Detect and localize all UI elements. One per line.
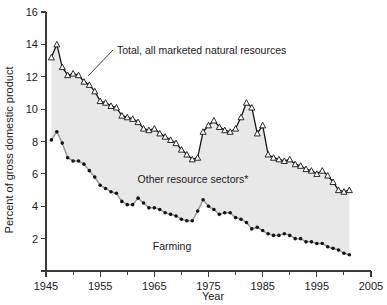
farming-point: [304, 240, 308, 244]
total-point: [70, 71, 76, 77]
farming-point: [201, 198, 205, 202]
farming-point: [125, 203, 129, 207]
farming-point: [245, 221, 249, 225]
y-axis-tick-label: 12: [26, 71, 38, 83]
farming-point: [218, 213, 222, 217]
farming-point: [115, 192, 119, 196]
farming-point: [190, 219, 194, 223]
farming-point: [234, 216, 238, 220]
farming-point: [315, 242, 319, 246]
x-axis-tick-label: 2005: [359, 280, 383, 292]
x-axis-tick-label: 1975: [196, 280, 220, 292]
x-axis-tick-label: 1995: [305, 280, 329, 292]
farming-point: [272, 234, 276, 238]
farming-point: [207, 204, 211, 208]
farming-point: [180, 217, 184, 221]
x-axis-tick-label: 1955: [88, 280, 112, 292]
farming-point: [320, 242, 324, 246]
farming-point: [60, 141, 64, 145]
farming-point: [212, 208, 216, 212]
farming-point: [153, 206, 157, 210]
farming-point: [77, 159, 81, 163]
farming-point: [104, 187, 108, 191]
farming-point: [109, 190, 113, 194]
total-point: [54, 41, 60, 47]
farming-point: [98, 183, 102, 187]
farming-point: [55, 130, 59, 134]
farming-point: [163, 211, 167, 215]
farming-point: [82, 162, 86, 166]
farming-point: [239, 217, 243, 221]
farming-point: [88, 169, 92, 173]
farming-point: [93, 175, 97, 179]
farming-point: [185, 219, 189, 223]
total-point: [287, 156, 293, 162]
farming-point: [147, 206, 151, 210]
farming-point: [71, 159, 75, 163]
farming-point: [288, 234, 292, 238]
y-axis-tick-label: 2: [32, 233, 38, 245]
total-point: [319, 168, 325, 174]
total-point: [346, 187, 352, 193]
farming-point: [283, 232, 287, 236]
x-axis-tick-label: 1985: [250, 280, 274, 292]
farming-point: [277, 234, 281, 238]
y-axis-tick-label: 10: [26, 103, 38, 115]
other-resource-sectors-band: [51, 44, 349, 254]
farming-point: [66, 156, 70, 160]
y-axis-tick-label: 6: [32, 168, 38, 180]
farming-point: [142, 201, 146, 205]
farming-point: [228, 211, 232, 215]
total-point: [260, 122, 266, 128]
farming-point: [348, 253, 352, 257]
y-axis-tick-label: 8: [32, 136, 38, 148]
farming-point: [326, 245, 330, 249]
x-axis-tick-label: 1945: [34, 280, 58, 292]
farming-point: [196, 209, 200, 213]
farming-point: [131, 203, 135, 207]
farming-point: [50, 138, 54, 142]
farming-point: [158, 208, 162, 212]
total-point: [211, 117, 217, 123]
farming-point: [331, 247, 335, 251]
farming-point: [310, 240, 314, 244]
y-axis-tick-label: 16: [26, 6, 38, 18]
total-point: [151, 126, 157, 132]
farming-point: [293, 237, 297, 241]
farming-point: [342, 251, 346, 255]
x-axis-tick-label: 1965: [142, 280, 166, 292]
farming-point: [223, 211, 227, 215]
y-axis-tick-label: 4: [32, 200, 38, 212]
farming-point: [120, 200, 124, 204]
farming-point: [255, 225, 259, 229]
farming-point: [337, 248, 341, 252]
farming-point: [174, 214, 178, 218]
y-axis-tick-label: 14: [26, 38, 38, 50]
farming-point: [169, 213, 173, 217]
chart-figure: 2468101214161945195519651975198519952005…: [0, 0, 387, 305]
farming-point: [266, 232, 270, 236]
other-resource-sectors-area: [51, 44, 349, 254]
chart-canvas: 2468101214161945195519651975198519952005: [0, 0, 387, 305]
farming-point: [250, 227, 254, 231]
farming-point: [261, 229, 265, 233]
total-point: [243, 100, 249, 106]
farming-point: [136, 196, 140, 200]
farming-point: [299, 237, 303, 241]
